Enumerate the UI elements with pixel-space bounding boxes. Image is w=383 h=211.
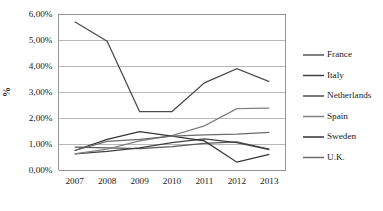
y-tick-label: 3,00% <box>29 87 53 97</box>
series-line-netherlands <box>75 22 270 112</box>
y-tick-label: 0,00% <box>29 165 53 175</box>
x-tick-label: 2013 <box>260 176 279 186</box>
x-tick-label: 2007 <box>66 176 85 186</box>
line-chart: 0,00%1,00%2,00%3,00%4,00%5,00%6,00% 2007… <box>0 0 383 211</box>
legend-label-france: France <box>327 49 352 59</box>
chart-legend: FranceItalyNetherlandsSpainSwedenU.K. <box>303 49 372 162</box>
y-tick-label: 6,00% <box>29 9 53 19</box>
chart-container: 0,00%1,00%2,00%3,00%4,00%5,00%6,00% 2007… <box>0 0 383 211</box>
y-tick-label: 4,00% <box>29 61 53 71</box>
legend-label-italy: Italy <box>327 70 344 80</box>
y-axis-tick-labels: 0,00%1,00%2,00%3,00%4,00%5,00%6,00% <box>29 9 53 175</box>
y-tick-label: 5,00% <box>29 35 53 45</box>
y-tick-label: 1,00% <box>29 139 53 149</box>
x-tick-label: 2011 <box>195 176 213 186</box>
x-tick-label: 2008 <box>98 176 117 186</box>
y-axis-title-text: % <box>1 87 12 97</box>
legend-label-spain: Spain <box>327 111 348 121</box>
legend-label-netherlands: Netherlands <box>327 90 372 100</box>
x-tick-label: 2012 <box>228 176 247 186</box>
legend-label-sweden: Sweden <box>327 131 356 141</box>
x-tick-label: 2010 <box>163 176 182 186</box>
y-axis-title: % <box>1 87 12 97</box>
x-axis-tick-labels: 2007200820092010201120122013 <box>66 176 279 186</box>
y-tick-label: 2,00% <box>29 113 53 123</box>
legend-label-uk: U.K. <box>327 152 345 162</box>
x-tick-label: 2009 <box>130 176 149 186</box>
